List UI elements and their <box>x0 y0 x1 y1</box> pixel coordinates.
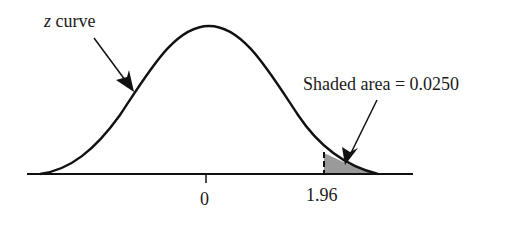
shaded-area-label: Shaded area = 0.0250 <box>303 75 459 93</box>
z-variable: z <box>44 11 51 31</box>
curve-label-text: curve <box>51 11 95 31</box>
curve-label-arrow <box>94 38 128 84</box>
z-curve-label: z curve <box>44 12 96 30</box>
area-label-arrow <box>350 100 377 155</box>
z-curve-diagram: z curve Shaded area = 0.0250 0 1.96 <box>0 0 509 227</box>
tick-label-critical: 1.96 <box>306 186 338 204</box>
tick-label-zero: 0 <box>200 190 209 208</box>
curve-arrow-head <box>116 70 134 92</box>
diagram-graphics <box>0 0 509 227</box>
normal-curve <box>40 26 378 174</box>
